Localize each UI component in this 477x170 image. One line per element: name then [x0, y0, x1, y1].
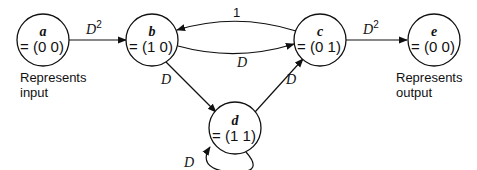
output-note-line2: output	[396, 85, 462, 100]
node-d-name: d	[232, 113, 240, 128]
node-b-value: = (1 0)	[129, 38, 173, 55]
output-note-line1: Represents	[396, 70, 462, 85]
node-a-value: = (0 0)	[20, 38, 64, 55]
node-b-name: b	[149, 24, 156, 39]
node-d-value: = (1 1)	[212, 127, 256, 144]
edge-label-b-d: D	[160, 72, 171, 87]
node-a-name: a	[40, 24, 47, 39]
node-b: b = (1 0)	[126, 14, 178, 66]
output-note: Represents output	[396, 70, 462, 100]
edge-b-to-c	[178, 44, 294, 54]
input-note-line1: Represents	[20, 70, 86, 85]
node-a: a = (0 0)	[17, 14, 69, 66]
node-e: e = (0 0)	[408, 14, 460, 66]
edge-c-to-b	[177, 21, 296, 31]
edge-label-c-b: 1	[233, 5, 240, 20]
node-c-value: = (0 1)	[297, 38, 341, 55]
edge-label-c-e: D2	[362, 19, 379, 37]
edge-label-b-c: D	[236, 55, 247, 70]
node-e-name: e	[431, 24, 437, 39]
input-note: Represents input	[20, 70, 86, 100]
node-d: d = (1 1)	[209, 102, 261, 154]
edge-label-a-b: D2	[85, 19, 102, 37]
node-c: c = (0 1)	[294, 14, 346, 66]
node-c-name: c	[317, 24, 324, 39]
edge-label-d-d: D	[183, 155, 194, 170]
node-e-value: = (0 0)	[411, 38, 455, 55]
input-note-line2: input	[20, 85, 86, 100]
edge-label-d-c: D	[285, 72, 296, 87]
edge-b-to-d	[166, 62, 216, 112]
